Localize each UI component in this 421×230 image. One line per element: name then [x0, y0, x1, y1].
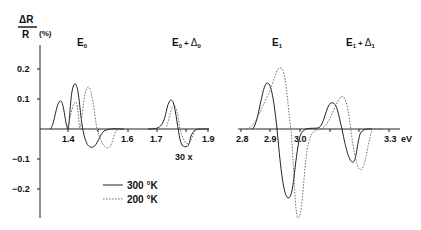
legend-label-200K: 200 °K	[127, 194, 158, 205]
y-ticks: 0.2 0.1 −0.1 −0.2	[12, 64, 40, 194]
y-tick-0.2: 0.2	[17, 64, 30, 74]
x-ticks-right: 2.8 2.9 3.0 3.3 eV	[236, 129, 412, 144]
x-tick-1.7: 1.7	[150, 134, 163, 144]
x-tick-2.8: 2.8	[236, 134, 249, 144]
reflectance-chart: ΔR R (%) 0.2 0.1 −0.1 −0.2 1.4 1.6 1.7 1…	[0, 0, 421, 230]
legend: 300 °K 200 °K	[103, 180, 158, 205]
label-e1-delta1: E1+Δ1	[346, 37, 375, 49]
x-tick-1.6: 1.6	[121, 134, 134, 144]
legend-label-300K: 300 °K	[127, 180, 158, 191]
series-200K	[66, 68, 382, 218]
x-tick-1.9: 1.9	[202, 134, 215, 144]
x-tick-3.3: 3.3	[384, 134, 397, 144]
scale-note: 30 x	[175, 152, 193, 162]
y-tick-neg0.2: −0.2	[12, 184, 30, 194]
y-tick-0.1: 0.1	[17, 94, 30, 104]
x-tick-2.9: 2.9	[264, 134, 277, 144]
y-label-denominator: R	[22, 29, 30, 40]
x-axis-unit: eV	[401, 134, 412, 144]
y-label-numerator: ΔR	[19, 14, 34, 25]
label-e1: E1	[272, 37, 283, 49]
y-tick-neg0.1: −0.1	[12, 154, 30, 164]
x-tick-1.4: 1.4	[62, 134, 75, 144]
label-e0: E0	[77, 37, 88, 49]
y-label-unit: (%)	[39, 29, 52, 38]
y-axis-label: ΔR R (%)	[18, 14, 52, 40]
label-e0-delta0: E0+Δ0	[172, 37, 201, 49]
